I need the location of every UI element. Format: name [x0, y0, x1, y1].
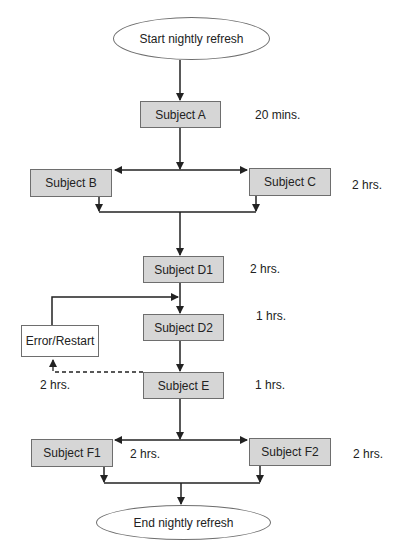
subject-f1-duration: 2 hrs.	[130, 447, 160, 461]
subject-f2-duration: 2 hrs.	[353, 447, 383, 461]
subject-b-label: Subject B	[45, 176, 96, 190]
subject-a-duration: 20 mins.	[255, 108, 300, 122]
subject-d2-node: Subject D2	[143, 314, 224, 341]
subject-a-label: Subject A	[155, 108, 206, 122]
subject-a-node: Subject A	[140, 101, 221, 128]
subject-e-node: Subject E	[143, 372, 224, 399]
end-node: End nightly refresh	[96, 505, 271, 540]
subject-d1-label: Subject D1	[154, 263, 213, 277]
subject-c-node: Subject C	[249, 168, 331, 196]
subject-f2-node: Subject F2	[249, 438, 331, 466]
subject-f1-node: Subject F1	[31, 439, 113, 467]
subject-c-label: Subject C	[264, 175, 316, 189]
error-restart-duration: 2 hrs.	[40, 378, 70, 392]
error-restart-label: Error/Restart	[26, 334, 95, 348]
subject-c-duration: 2 hrs.	[352, 178, 382, 192]
subject-b-node: Subject B	[30, 169, 112, 197]
start-node: Start nightly refresh	[113, 17, 270, 60]
subject-f2-label: Subject F2	[261, 445, 318, 459]
subject-d2-duration: 1 hrs.	[256, 309, 286, 323]
error-restart-node: Error/Restart	[21, 325, 99, 357]
start-label: Start nightly refresh	[139, 32, 243, 46]
subject-d1-duration: 2 hrs.	[250, 262, 280, 276]
subject-f1-label: Subject F1	[43, 446, 100, 460]
subject-d1-node: Subject D1	[143, 256, 224, 283]
subject-e-label: Subject E	[158, 379, 209, 393]
subject-e-duration: 1 hrs.	[255, 378, 285, 392]
end-label: End nightly refresh	[133, 516, 233, 530]
subject-d2-label: Subject D2	[154, 321, 213, 335]
